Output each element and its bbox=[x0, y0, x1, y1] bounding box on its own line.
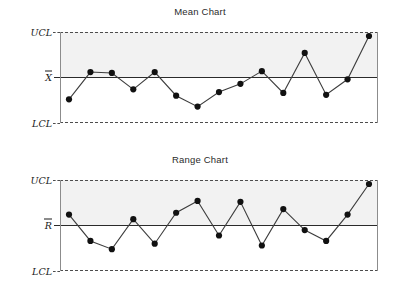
mean-chart-lcl-label: LCL bbox=[32, 118, 52, 129]
range-chart-block: Range Chart UCL R LCL bbox=[0, 148, 400, 296]
mean-chart-series bbox=[60, 32, 378, 123]
range-chart-lcl-label: LCL bbox=[32, 266, 52, 277]
mean-chart-ucl-tick bbox=[53, 32, 60, 33]
mean-chart-plot-area bbox=[60, 32, 378, 123]
mean-chart-center-label: X bbox=[45, 72, 52, 83]
range-chart-lcl-tick bbox=[53, 271, 60, 272]
mean-chart-ucl-label: UCL bbox=[30, 27, 52, 38]
range-chart-plot-area bbox=[60, 180, 378, 271]
range-chart-series bbox=[60, 180, 378, 271]
mean-chart-block: Mean Chart UCL X LCL bbox=[0, 0, 400, 148]
range-chart-title: Range Chart bbox=[0, 154, 400, 165]
range-chart-ucl-label: UCL bbox=[30, 175, 52, 186]
mean-chart-axis-labels: UCL X LCL bbox=[0, 32, 52, 123]
range-chart-ucl-tick bbox=[53, 180, 60, 181]
range-chart-center-label: R bbox=[45, 220, 52, 231]
mean-chart-lcl-tick bbox=[53, 123, 60, 124]
x-bar-symbol: X bbox=[45, 72, 52, 83]
range-chart-axis-labels: UCL R LCL bbox=[0, 180, 52, 271]
mean-chart-title: Mean Chart bbox=[0, 6, 400, 17]
r-bar-symbol: R bbox=[45, 220, 52, 231]
